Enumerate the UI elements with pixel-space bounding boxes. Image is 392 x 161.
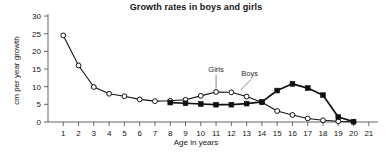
x-tick-label: 10 [196,129,205,138]
x-tick-label: 5 [122,129,127,138]
data-point-girls [122,94,127,99]
x-tick-label: 20 [349,129,358,138]
x-tick-label: 8 [168,129,173,138]
series-line-girls [63,35,353,122]
data-point-boys [275,88,280,93]
plot-area: 0510152025301234567891011121314151617181… [0,0,392,161]
data-point-boys [290,81,295,86]
data-point-girls [153,99,158,104]
x-tick-label: 17 [303,129,312,138]
data-point-girls [107,91,112,96]
data-point-boys [229,102,234,107]
data-point-girls [321,118,326,123]
data-point-girls [214,90,219,95]
x-tick-label: 18 [319,129,328,138]
x-tick-label: 19 [334,129,343,138]
data-point-girls [229,90,234,95]
y-axis-title: cm per year growth [12,11,21,131]
data-point-girls [198,93,203,98]
data-point-boys [198,102,203,107]
data-point-boys [244,101,249,106]
growth-rates-chart: Growth rates in boys and girls 051015202… [0,0,392,161]
data-point-boys [259,99,264,104]
x-tick-label: 9 [183,129,188,138]
data-point-boys [183,101,188,106]
x-tick-label: 16 [288,129,297,138]
data-point-girls [61,33,66,38]
data-point-girls [76,63,81,68]
annotation-leader-line [241,79,252,90]
y-tick-label: 30 [32,12,41,21]
data-point-boys [351,119,356,124]
data-point-girls [244,94,249,99]
annotation-girls: Girls [208,65,224,74]
y-tick-label: 20 [32,47,41,56]
data-point-boys [321,93,326,98]
data-point-girls [137,97,142,102]
x-tick-label: 3 [92,129,97,138]
y-tick-label: 5 [37,100,42,109]
data-point-girls [290,113,295,118]
x-axis-title: Age in years [0,138,392,147]
y-tick-label: 0 [37,118,42,127]
x-tick-label: 14 [257,129,266,138]
x-tick-label: 12 [227,129,236,138]
x-tick-label: 1 [61,129,66,138]
data-point-boys [336,115,341,120]
data-point-girls [275,109,280,114]
x-tick-label: 2 [76,129,81,138]
x-tick-label: 21 [364,129,373,138]
y-tick-label: 25 [32,30,41,39]
annotation-boys: Boys [241,69,258,78]
x-tick-label: 4 [107,129,112,138]
y-tick-label: 10 [32,83,41,92]
x-tick-label: 11 [212,129,221,138]
data-point-boys [168,100,173,105]
x-tick-label: 6 [137,129,142,138]
data-point-girls [305,116,310,121]
data-point-boys [305,86,310,91]
x-tick-label: 7 [153,129,158,138]
x-tick-label: 15 [273,129,282,138]
x-tick-label: 13 [242,129,251,138]
data-point-girls [91,85,96,90]
y-tick-label: 15 [32,65,41,74]
data-point-boys [214,102,219,107]
